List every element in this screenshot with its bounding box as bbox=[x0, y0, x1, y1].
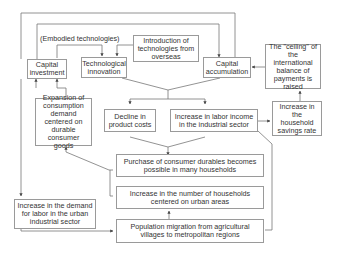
node-capital-accumulation: Capital accumulation bbox=[203, 57, 251, 78]
node-text: Introduction of technologies from overse… bbox=[136, 37, 196, 61]
node-technological-innovation: Technological innovation bbox=[81, 57, 127, 78]
node-capital-investment: Capital investment bbox=[27, 59, 67, 79]
node-text: Increase in the demand for labor in the … bbox=[17, 202, 93, 226]
node-ceiling-balance-payments: The "ceiling" of the international balan… bbox=[265, 44, 321, 89]
node-decline-product-costs: Decline in product costs bbox=[104, 109, 156, 132]
node-labor-demand-urban: Increase in the demand for labor in the … bbox=[14, 199, 96, 229]
node-text: Expansion of consumption demand centered… bbox=[38, 94, 89, 150]
flow-diagram: (Embodied technologies) Capital investme… bbox=[0, 0, 341, 255]
node-text: Increase in the number of households cen… bbox=[119, 190, 261, 206]
node-text: Purchase of consumer durables becomes po… bbox=[119, 158, 261, 174]
node-expansion-consumption: Expansion of consumption demand centered… bbox=[35, 98, 92, 146]
node-household-savings-rate: Increase in the household savings rate bbox=[272, 101, 322, 136]
node-introduction-technologies: Introduction of technologies from overse… bbox=[133, 35, 199, 62]
node-text: Capital accumulation bbox=[206, 60, 248, 76]
node-population-migration: Population migration from agricultural v… bbox=[116, 219, 264, 243]
node-text: Technological innovation bbox=[82, 60, 126, 76]
node-text: Capital investment bbox=[30, 61, 65, 77]
node-text: Increase in labor income in the industri… bbox=[173, 113, 255, 129]
node-urban-households: Increase in the number of households cen… bbox=[116, 186, 264, 209]
node-text: Decline in product costs bbox=[107, 113, 153, 129]
node-text: The "ceiling" of the international balan… bbox=[268, 43, 318, 91]
node-text: Population migration from agricultural v… bbox=[119, 223, 261, 239]
node-text: Increase in the household savings rate bbox=[275, 103, 319, 135]
node-labor-income: Increase in labor income in the industri… bbox=[170, 109, 258, 132]
embodied-technologies-label: (Embodied technologies) bbox=[40, 35, 120, 43]
node-purchase-consumer-durables: Purchase of consumer durables becomes po… bbox=[116, 154, 264, 177]
